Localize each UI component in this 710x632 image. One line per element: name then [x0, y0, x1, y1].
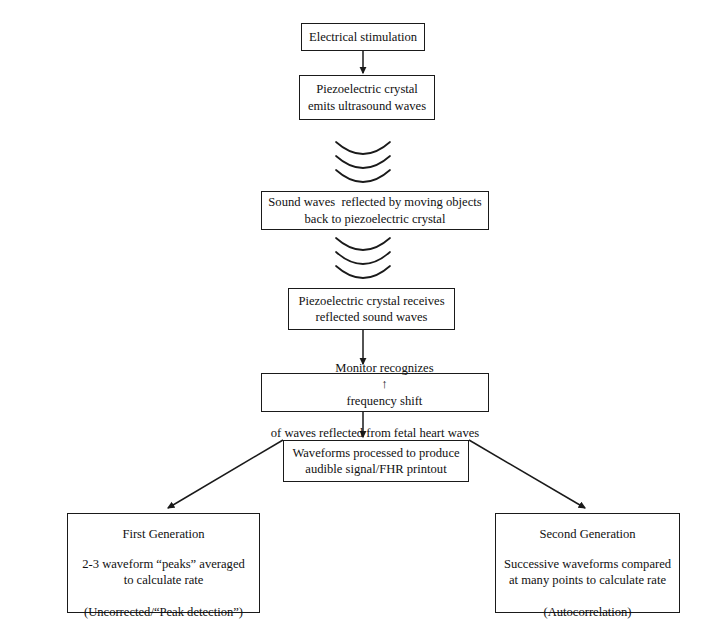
first-generation-body-line-1: 2-3 waveform “peaks” averaged [82, 556, 245, 572]
node-sound-waves-reflected: Sound waves reflected by moving objects … [261, 191, 489, 230]
node-monitor-recognizes-line-1: Monitor recognizes ↑ frequency shift [316, 344, 433, 425]
node-piezo-emits-line-2: emits ultrasound waves [308, 98, 426, 114]
first-generation-title: First Generation [122, 526, 204, 542]
second-generation-footer: (Autocorrelation) [543, 604, 631, 620]
increase-arrow-icon: ↑ [379, 376, 390, 391]
connector-waveforms-to-first-generation [168, 440, 283, 508]
ultrasound-waves-reflected-icon [336, 238, 390, 278]
node-piezo-receives-line-1: Piezoelectric crystal receives [298, 293, 444, 309]
node-monitor-recognizes-line-2: of waves reflected from fetal heart wave… [271, 425, 479, 441]
node-electrical-stimulation-line-1: Electrical stimulation [309, 29, 417, 45]
node-piezo-receives: Piezoelectric crystal receives reflected… [288, 288, 455, 330]
node-piezo-emits-line-1: Piezoelectric crystal [316, 81, 418, 97]
node-waveforms-processed: Waveforms processed to produce audible s… [283, 440, 469, 482]
node-second-generation: Second Generation Successive waveforms c… [495, 513, 680, 613]
node-waveforms-processed-line-1: Waveforms processed to produce [292, 445, 459, 461]
second-generation-body-line-1: Successive waveforms compared [504, 556, 671, 572]
node-piezo-emits: Piezoelectric crystal emits ultrasound w… [299, 75, 435, 120]
flowchart-canvas: Electrical stimulation Piezoelectric cry… [0, 0, 710, 632]
second-generation-title: Second Generation [539, 526, 635, 542]
first-generation-body-line-2: to calculate rate [82, 572, 245, 588]
first-generation-body: 2-3 waveform “peaks” averaged to calcula… [82, 556, 245, 588]
second-generation-body-line-2: at many points to calculate rate [504, 572, 671, 588]
node-first-generation: First Generation 2-3 waveform “peaks” av… [67, 513, 260, 613]
node-sound-waves-reflected-line-1: Sound waves reflected by moving objects [268, 194, 481, 210]
node-waveforms-processed-line-2: audible signal/FHR printout [305, 461, 446, 477]
first-generation-footer: (Uncorrected/“Peak detection”) [84, 604, 243, 620]
node-electrical-stimulation: Electrical stimulation [301, 23, 425, 51]
second-generation-body: Successive waveforms compared at many po… [504, 556, 671, 588]
connector-waveforms-to-second-generation [469, 440, 585, 508]
node-piezo-receives-line-2: reflected sound waves [316, 309, 428, 325]
monitor-recognizes-text-before: Monitor recognizes [335, 361, 433, 375]
ultrasound-waves-emitted-icon [336, 142, 390, 182]
node-monitor-recognizes: Monitor recognizes ↑ frequency shift of … [261, 373, 489, 412]
node-sound-waves-reflected-line-2: back to piezoelectric crystal [305, 211, 446, 227]
monitor-recognizes-text-after: frequency shift [346, 394, 422, 408]
